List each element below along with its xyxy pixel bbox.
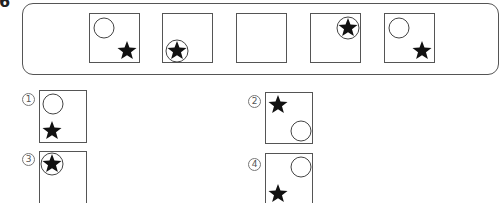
star-icon <box>42 121 61 139</box>
star-icon <box>338 18 357 36</box>
circle-icon <box>94 18 114 38</box>
circle-icon <box>389 18 409 38</box>
circle-icon <box>291 121 311 141</box>
sequence-box-5 <box>384 13 435 63</box>
option-4-box[interactable] <box>265 153 313 203</box>
sequence-box-1 <box>89 13 140 63</box>
star-icon <box>412 41 431 59</box>
option-2-label[interactable]: 2 <box>248 94 261 108</box>
option-2-box[interactable] <box>265 92 313 144</box>
sequence-box-3-blank[interactable] <box>236 13 287 63</box>
circle-icon <box>43 94 63 114</box>
star-icon <box>268 95 287 113</box>
star-icon <box>117 41 136 59</box>
star-icon <box>268 184 287 202</box>
star-icon <box>42 154 61 172</box>
option-1-box[interactable] <box>39 90 87 143</box>
sequence-box-4 <box>310 13 361 63</box>
circle-icon <box>291 157 311 177</box>
option-4-label[interactable]: 4 <box>248 157 261 171</box>
sequence-box-2 <box>162 13 213 63</box>
question-number: 6 <box>0 0 10 11</box>
star-icon <box>167 41 186 59</box>
option-3-label[interactable]: 3 <box>22 152 35 166</box>
option-3-box[interactable] <box>39 151 87 203</box>
option-1-label[interactable]: 1 <box>22 92 35 106</box>
